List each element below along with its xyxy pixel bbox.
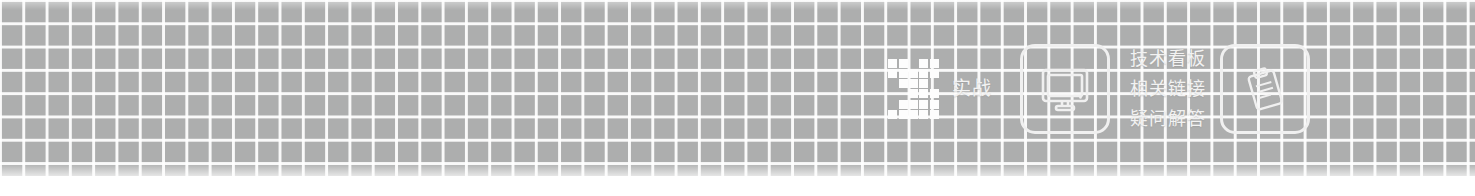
- mosaic-pixel: [930, 110, 939, 119]
- white-baseline: [0, 176, 1475, 196]
- decorative-banner: 实战 技术看板 相关链接 疑问解答: [0, 0, 1475, 196]
- mosaic-pixel: [888, 110, 897, 119]
- pixel-mosaic-logo: [878, 59, 938, 115]
- mosaic-pixel: [930, 100, 939, 109]
- mosaic-pixel: [909, 100, 918, 109]
- mosaic-pixel: [909, 110, 918, 119]
- banner-content-cluster: 实战 技术看板 相关链接 疑问解答: [878, 0, 1310, 177]
- mosaic-pixel: [919, 110, 928, 119]
- mosaic-pixel: [919, 59, 928, 68]
- monitor-icon: [1037, 61, 1093, 117]
- mosaic-pixel: [899, 100, 908, 109]
- practice-label: 实战: [952, 79, 992, 98]
- mosaic-pixel: [919, 89, 928, 98]
- mosaic-pixel: [919, 69, 928, 78]
- monitor-icon-tile[interactable]: [1020, 44, 1110, 134]
- mosaic-pixel: [930, 69, 939, 78]
- link-list: 技术看板 相关链接 疑问解答: [1130, 50, 1206, 128]
- clipboard-icon: [1237, 61, 1293, 117]
- mosaic-pixel: [909, 79, 918, 88]
- link-item-0[interactable]: 技术看板: [1130, 50, 1206, 68]
- mosaic-pixel: [899, 69, 908, 78]
- mosaic-pixel: [888, 59, 897, 68]
- mosaic-pixel: [909, 69, 918, 78]
- mosaic-pixel: [930, 59, 939, 68]
- mosaic-pixel: [919, 79, 928, 88]
- link-item-2[interactable]: 疑问解答: [1130, 110, 1206, 128]
- mosaic-pixel: [899, 79, 908, 88]
- mosaic-pixel: [899, 59, 908, 68]
- mosaic-pixel: [909, 89, 918, 98]
- link-item-1[interactable]: 相关链接: [1130, 80, 1206, 98]
- mosaic-pixel: [899, 110, 908, 119]
- mosaic-pixel: [930, 89, 939, 98]
- clipboard-icon-tile[interactable]: [1220, 44, 1310, 134]
- mosaic-pixel: [919, 100, 928, 109]
- mosaic-pixel: [888, 69, 897, 78]
